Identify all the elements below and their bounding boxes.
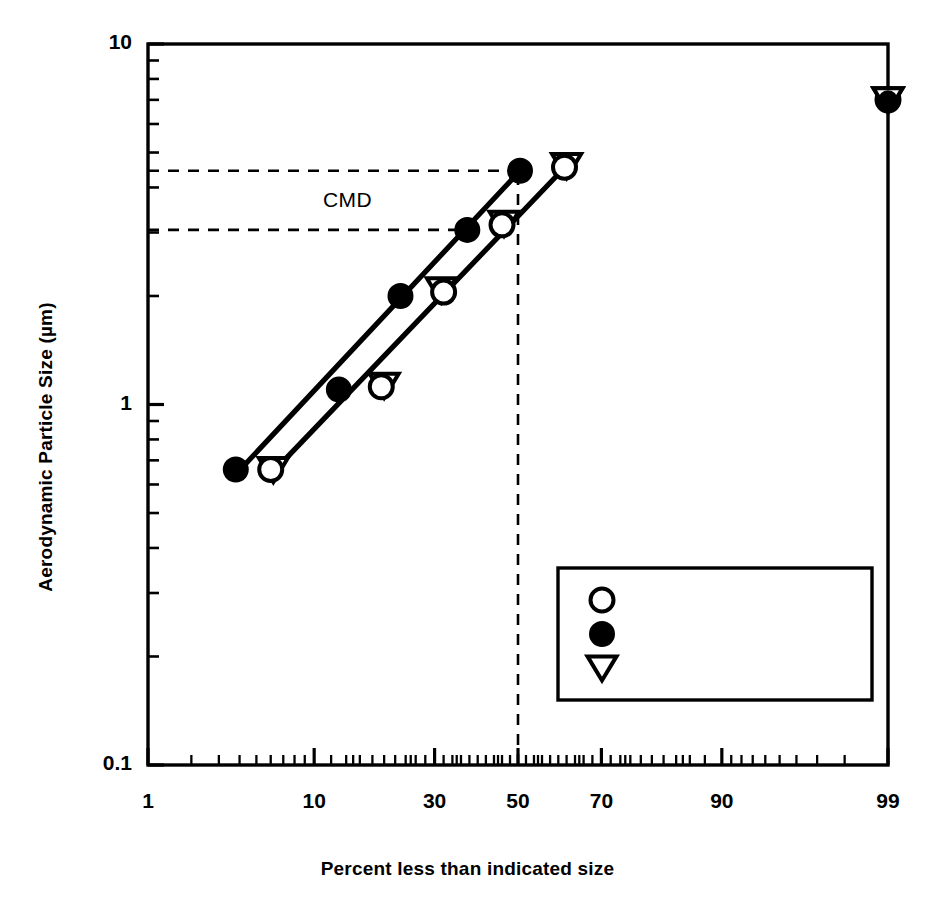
legend-marker-open-circle <box>591 589 614 612</box>
data-point-0600-1100-2 <box>432 281 455 304</box>
data-point-1100-1600-0 <box>224 458 248 482</box>
data-point-0600-1100-1 <box>370 375 393 398</box>
data-point-0600-1100-4 <box>553 156 576 179</box>
data-point-1100-1600-2 <box>388 284 412 308</box>
plot-canvas <box>0 0 935 904</box>
data-point-1100-1600-4 <box>508 159 532 183</box>
fit-line-lower <box>271 166 567 475</box>
data-point-merged-99-fill <box>879 91 896 108</box>
fit-line-upper <box>236 171 520 475</box>
data-point-0600-1100-0 <box>259 458 282 481</box>
data-point-1100-1600-1 <box>327 378 351 402</box>
data-point-1100-1600-3 <box>455 218 479 242</box>
data-point-0600-1100-3 <box>491 213 514 236</box>
chart-root: Aerodynamic Particle Size (µm) Percent l… <box>0 0 935 904</box>
legend-marker-filled-circle <box>590 622 614 646</box>
